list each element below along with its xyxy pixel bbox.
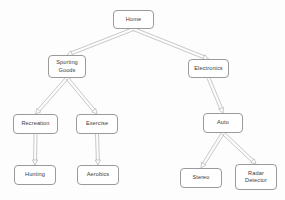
connector-recreation-to-hunting (32, 134, 37, 165)
node-label: Recreation (21, 120, 49, 127)
node-home[interactable]: Home (113, 10, 154, 29)
node-label: Electronics (194, 65, 222, 72)
connector-sporting-to-recreation (36, 77, 69, 114)
node-label: Auto (217, 119, 229, 126)
node-sporting[interactable]: Sporting Goods (48, 55, 86, 78)
connector-home-to-electronics (133, 28, 209, 60)
node-exercise[interactable]: Exercise (76, 114, 118, 134)
connector-exercise-to-aerobics (95, 134, 100, 165)
node-electronics[interactable]: Electronics (188, 59, 229, 78)
node-label: Sporting Goods (56, 59, 78, 73)
node-label: Home (126, 16, 141, 23)
node-recreation[interactable]: Recreation (13, 114, 58, 134)
diagram-canvas: HomeSporting GoodsElectronicsRecreationE… (0, 0, 285, 200)
node-label: Stereo (192, 174, 209, 181)
connector-electronics-to-auto (207, 77, 223, 113)
connector-home-to-sporting (67, 28, 134, 56)
node-label: Hunting (25, 171, 45, 178)
node-hunting[interactable]: Hunting (14, 165, 56, 185)
node-radar[interactable]: Radar Detector (235, 164, 277, 190)
node-label: Exercise (86, 120, 108, 127)
node-label: Aerobics (87, 171, 110, 178)
node-aerobics[interactable]: Aerobics (77, 165, 119, 185)
connector-auto-to-stereo (201, 132, 224, 168)
connector-auto-to-radar (222, 132, 256, 164)
node-stereo[interactable]: Stereo (180, 168, 222, 188)
node-auto[interactable]: Auto (203, 113, 243, 133)
connector-sporting-to-exercise (66, 77, 97, 114)
node-label: Radar Detector (245, 170, 267, 184)
